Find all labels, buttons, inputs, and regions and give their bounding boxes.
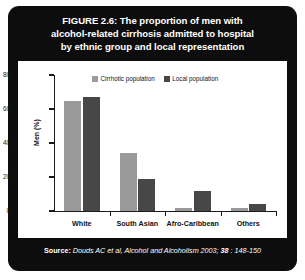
bar [120, 153, 137, 211]
x-axis-tick [221, 212, 222, 216]
figure-title-line-3: by ethnic group and local representation [18, 40, 287, 53]
plot-area [54, 75, 276, 211]
x-axis-tick [165, 212, 166, 216]
y-axis-tick-label: 60 [0, 106, 10, 112]
chart-panel: Cirrhotic populationLocal population Men… [18, 61, 287, 238]
figure-title-line-2: alcohol-related cirrhosis admitted to ho… [18, 27, 287, 40]
y-axis-tick-label: 0 [0, 208, 10, 214]
bar [231, 208, 248, 211]
source-line: Source: Douds AC et al, Alcohol and Alco… [8, 246, 297, 255]
x-axis-tick [110, 212, 111, 216]
source-volume: 38 [221, 246, 229, 255]
figure-card: FIGURE 2.6: The proportion of men with a… [8, 6, 297, 271]
y-axis-tick-label: 40 [0, 140, 10, 146]
x-axis-label: Others [208, 219, 288, 228]
figure-title: FIGURE 2.6: The proportion of men with a… [18, 14, 287, 54]
source-label: Source: [44, 246, 71, 255]
source-pages: : 148-150 [231, 246, 261, 255]
bar [249, 204, 266, 211]
bar [64, 101, 81, 212]
bar [83, 97, 100, 211]
source-citation: Douds AC et al, Alcohol and Alcoholism 2… [73, 246, 219, 255]
y-axis-tick-label: 80 [0, 72, 10, 78]
bar [194, 191, 211, 211]
bar [175, 208, 192, 211]
y-axis-title: Men (%) [33, 103, 40, 163]
y-axis-tick-label: 20 [0, 174, 10, 180]
bar [138, 179, 155, 211]
figure-title-line-1: FIGURE 2.6: The proportion of men with [18, 14, 287, 27]
x-axis-tick [276, 212, 277, 216]
